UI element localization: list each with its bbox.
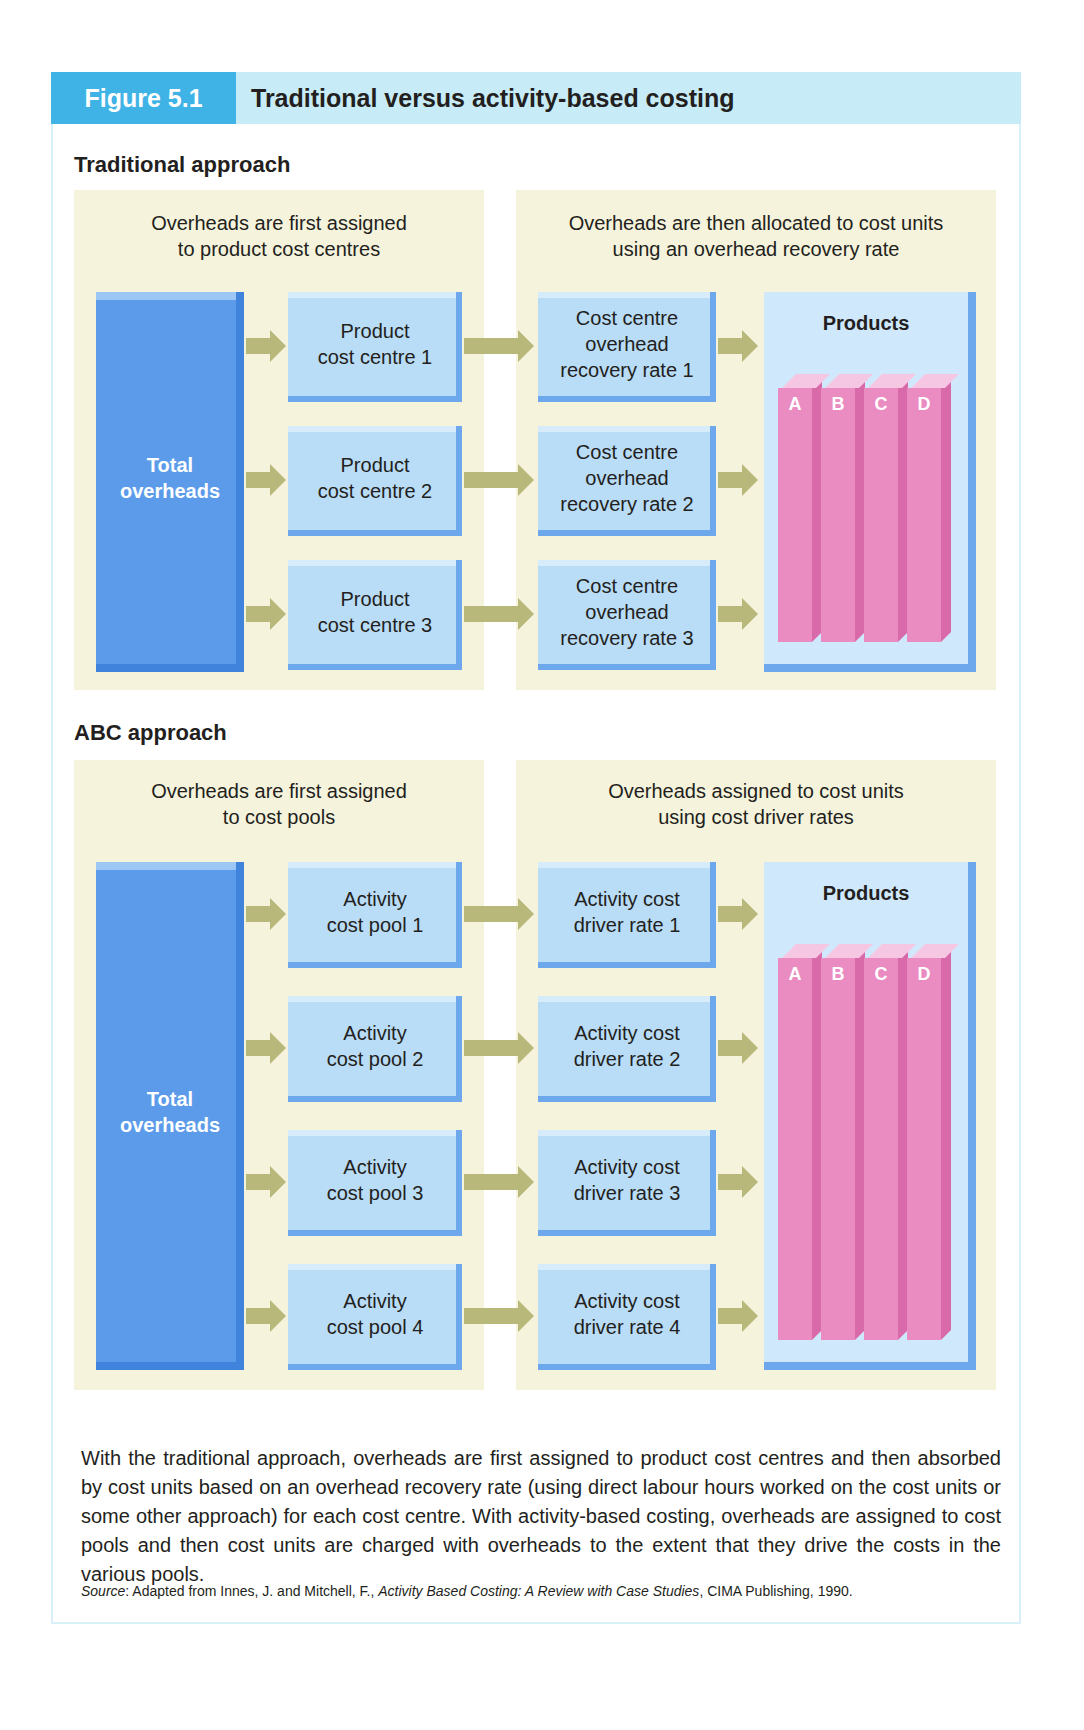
box-label: Product cost centre 3 <box>318 586 433 638</box>
product-cost-centre-3: Product cost centre 3 <box>288 560 462 664</box>
traditional-section-title: Traditional approach <box>74 152 290 178</box>
box-label: Product cost centre 1 <box>318 318 433 370</box>
box-label: Cost centre overhead recovery rate 2 <box>560 439 693 517</box>
activity-cost-pool-1: Activity cost pool 1 <box>288 862 462 962</box>
box-label: Activity cost pool 3 <box>327 1154 424 1206</box>
product-label: A <box>778 394 812 415</box>
box-label: Activity cost driver rate 3 <box>574 1154 681 1206</box>
total-overheads-label: Total overheads <box>120 1086 220 1138</box>
box-label: Cost centre overhead recovery rate 1 <box>560 305 693 383</box>
source-prefix: : Adapted from Innes, J. and Mitchell, F… <box>125 1583 378 1599</box>
box-label: Activity cost driver rate 2 <box>574 1020 681 1072</box>
box-label: Activity cost driver rate 1 <box>574 886 681 938</box>
arrow-icon <box>464 898 534 930</box>
arrow-icon <box>464 598 534 630</box>
source-book-title: Activity Based Costing: A Review with Ca… <box>378 1583 699 1599</box>
arrow-icon <box>246 1300 286 1332</box>
arrow-icon <box>246 1166 286 1198</box>
traditional-left-caption: Overheads are first assigned to product … <box>74 210 484 262</box>
box-label: Activity cost driver rate 4 <box>574 1288 681 1340</box>
traditional-right-caption: Overheads are then allocated to cost uni… <box>516 210 996 262</box>
figure-description: With the traditional approach, overheads… <box>81 1444 1001 1589</box>
activity-cost-pool-3: Activity cost pool 3 <box>288 1130 462 1230</box>
arrow-icon <box>246 898 286 930</box>
recovery-rate-1: Cost centre overhead recovery rate 1 <box>538 292 716 396</box>
source-label: Source <box>81 1583 125 1599</box>
product-label: B <box>821 394 855 415</box>
arrow-icon <box>464 464 534 496</box>
arrow-icon <box>718 598 758 630</box>
product-label: A <box>778 964 812 985</box>
product-bar-b: B <box>821 388 855 642</box>
figure-title: Traditional versus activity-based costin… <box>251 72 734 124</box>
box-label: Activity cost pool 4 <box>327 1288 424 1340</box>
total-overheads-label: Total overheads <box>120 452 220 504</box>
product-label: B <box>821 964 855 985</box>
activity-cost-pool-2: Activity cost pool 2 <box>288 996 462 1096</box>
abc-total-overheads: Total overheads <box>96 862 244 1362</box>
recovery-rate-2: Cost centre overhead recovery rate 2 <box>538 426 716 530</box>
activity-cost-pool-4: Activity cost pool 4 <box>288 1264 462 1364</box>
cost-driver-rate-3: Activity cost driver rate 3 <box>538 1130 716 1230</box>
arrow-icon <box>718 1166 758 1198</box>
arrow-icon <box>464 1166 534 1198</box>
arrow-icon <box>464 1300 534 1332</box>
traditional-products-box: Products A B C D <box>764 292 976 664</box>
product-cost-centre-1: Product cost centre 1 <box>288 292 462 396</box>
product-label: D <box>907 964 941 985</box>
product-label: D <box>907 394 941 415</box>
figure-number: Figure 5.1 <box>51 72 236 124</box>
arrow-icon <box>246 598 286 630</box>
arrow-icon <box>718 330 758 362</box>
recovery-rate-3: Cost centre overhead recovery rate 3 <box>538 560 716 664</box>
source-suffix: , CIMA Publishing, 1990. <box>699 1583 852 1599</box>
abc-products-box: Products A B C D <box>764 862 976 1362</box>
arrow-icon <box>246 330 286 362</box>
product-bar-a: A <box>778 388 812 642</box>
figure-header: Figure 5.1 Traditional versus activity-b… <box>51 72 1021 124</box>
product-bar-d: D <box>907 388 941 642</box>
abc-left-caption: Overheads are first assigned to cost poo… <box>74 778 484 830</box>
product-bar-d: D <box>907 958 941 1340</box>
box-label: Activity cost pool 2 <box>327 1020 424 1072</box>
arrow-icon <box>718 464 758 496</box>
products-label: Products <box>764 882 968 905</box>
product-cost-centre-2: Product cost centre 2 <box>288 426 462 530</box>
box-label: Cost centre overhead recovery rate 3 <box>560 573 693 651</box>
arrow-icon <box>718 1300 758 1332</box>
traditional-total-overheads: Total overheads <box>96 292 244 664</box>
product-label: C <box>864 964 898 985</box>
product-label: C <box>864 394 898 415</box>
arrow-icon <box>464 330 534 362</box>
product-bar-c: C <box>864 388 898 642</box>
arrow-icon <box>246 464 286 496</box>
abc-right-caption: Overheads assigned to cost units using c… <box>516 778 996 830</box>
abc-section-title: ABC approach <box>74 720 227 746</box>
arrow-icon <box>718 1032 758 1064</box>
product-bar-a: A <box>778 958 812 1340</box>
products-label: Products <box>764 312 968 335</box>
cost-driver-rate-2: Activity cost driver rate 2 <box>538 996 716 1096</box>
cost-driver-rate-4: Activity cost driver rate 4 <box>538 1264 716 1364</box>
product-bar-b: B <box>821 958 855 1340</box>
cost-driver-rate-1: Activity cost driver rate 1 <box>538 862 716 962</box>
arrow-icon <box>718 898 758 930</box>
arrow-icon <box>246 1032 286 1064</box>
arrow-icon <box>464 1032 534 1064</box>
product-bar-c: C <box>864 958 898 1340</box>
box-label: Product cost centre 2 <box>318 452 433 504</box>
box-label: Activity cost pool 1 <box>327 886 424 938</box>
figure-source: Source: Adapted from Innes, J. and Mitch… <box>81 1583 1001 1599</box>
